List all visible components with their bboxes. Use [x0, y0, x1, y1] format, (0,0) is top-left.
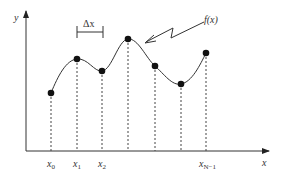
sample-point-x3 [125, 36, 132, 43]
x-axis-label: x [261, 157, 267, 168]
function-label: f(x) [204, 14, 219, 26]
zigzag-arrow-icon [146, 22, 204, 42]
tick-label-xN1: xN−1 [198, 158, 216, 171]
axes: y x [13, 11, 269, 168]
function-sampling-diagram: y x Δx f(x) x0 [0, 0, 283, 176]
tick-labels: x0 x1 x2 xN−1 [46, 158, 216, 171]
y-axis-label: y [13, 12, 19, 23]
sample-point-xN1 [203, 50, 210, 57]
sample-point-x0 [48, 90, 55, 97]
sample-point-x2 [99, 68, 106, 75]
sample-lines [51, 39, 206, 151]
sample-point-x5 [178, 81, 185, 88]
open-arrowhead-icon [145, 35, 156, 43]
function-pointer [145, 22, 204, 43]
sample-point-x4 [152, 63, 159, 70]
tick-label-x1: x1 [72, 158, 81, 171]
delta-x-label: Δx [83, 18, 94, 29]
tick-label-x2: x2 [97, 158, 106, 171]
sample-point-x1 [74, 56, 81, 63]
tick-label-x0: x0 [46, 158, 55, 171]
